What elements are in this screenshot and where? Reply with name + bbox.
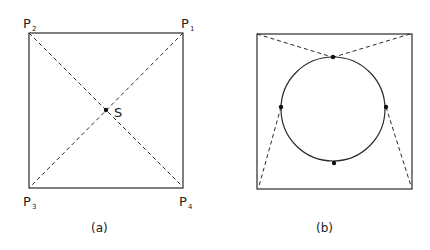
figure-a: S P 2 P 1 P 3 P 4 (a) xyxy=(23,16,194,235)
diagram-canvas: S P 2 P 1 P 3 P 4 (a) (b) xyxy=(0,0,430,250)
point-s xyxy=(104,108,108,112)
dash-top-right xyxy=(334,34,410,57)
caption-a: (a) xyxy=(91,221,108,235)
label-p3-sub: 3 xyxy=(32,203,36,211)
label-p4: P xyxy=(179,194,187,209)
circle-b xyxy=(281,57,385,161)
tangent-point-right xyxy=(384,105,388,109)
tangent-point-left xyxy=(279,105,283,109)
label-p1-sub: 1 xyxy=(190,25,194,33)
dash-top-left xyxy=(257,34,332,57)
caption-b: (b) xyxy=(316,221,333,235)
label-p4-sub: 4 xyxy=(188,203,193,211)
dash-right xyxy=(386,107,411,186)
figure-b: (b) xyxy=(257,34,412,235)
tangent-point-bottom xyxy=(332,161,336,165)
label-p2-sub: 2 xyxy=(32,25,36,33)
label-p3: P xyxy=(23,194,31,209)
label-p1: P xyxy=(181,16,189,31)
dash-left xyxy=(259,107,281,186)
tangent-point-top xyxy=(331,55,335,59)
label-s: S xyxy=(114,105,122,120)
label-p2: P xyxy=(23,16,31,31)
